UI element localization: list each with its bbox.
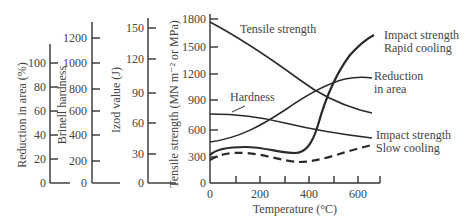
reduction-annotation-line1: Reduction <box>374 69 423 83</box>
tick-label: 40 <box>34 128 46 142</box>
impact-slow-annotation-line2: Slow cooling <box>376 141 440 155</box>
tick-label: 600 <box>349 187 367 201</box>
temperature-axis: 0 200 400 600 Temperature (°C) <box>207 176 380 216</box>
impact-slow-annotation-line1: Impact strength <box>376 128 451 142</box>
tick-label: 100 <box>28 56 46 70</box>
tensile-axis-label: Tensile strength (MN m⁻² or MPa) <box>167 20 181 187</box>
tick-label: 900 <box>188 93 206 107</box>
tick-label: 120 <box>126 52 144 66</box>
tick-label: 600 <box>69 104 87 118</box>
tick-label: 200 <box>69 154 87 168</box>
tick-label: 150 <box>126 21 144 35</box>
tensile-strength-annotation: Tensile strength <box>240 22 316 36</box>
tick-label: 300 <box>188 150 206 164</box>
tick-label: 80 <box>34 80 46 94</box>
tick-label: 30 <box>132 147 144 161</box>
izod-axis: 0 30 60 90 120 150 Izod value (J) <box>109 18 176 190</box>
tick-label: 400 <box>300 187 318 201</box>
reduction-in-area-curve <box>210 77 372 142</box>
impact-rapid-annotation-line1: Impact strength <box>384 28 459 42</box>
tick-label: 800 <box>69 82 87 96</box>
tick-label: 60 <box>132 116 144 130</box>
reduction-annotation-line2: in area <box>374 82 407 96</box>
tick-label: 1500 <box>182 40 206 54</box>
reduction-axis-label: Reduction in area (%) <box>15 62 29 168</box>
tick-label: 1200 <box>182 67 206 81</box>
tick-label: 200 <box>251 187 269 201</box>
tick-label: 60 <box>34 104 46 118</box>
tick-label: 600 <box>188 123 206 137</box>
brinell-axis-label: Brinell hardness <box>55 66 69 145</box>
tick-label: 1200 <box>63 31 87 45</box>
tensile-axis: 0 300 600 900 1200 1500 1800 Tensile str… <box>167 12 218 190</box>
tick-label: 0 <box>207 187 213 201</box>
tick-label: 90 <box>132 86 144 100</box>
tick-label: 0 <box>81 176 87 190</box>
multi-axis-chart: 0 20 40 60 80 100 Reduction in area (%) … <box>0 0 468 222</box>
tick-label: 400 <box>69 128 87 142</box>
impact-rapid-annotation-line2: Rapid cooling <box>384 41 452 55</box>
izod-axis-label: Izod value (J) <box>109 67 123 133</box>
hardness-curve <box>210 114 372 138</box>
x-axis-label: Temperature (°C) <box>253 202 337 216</box>
tick-label: 0 <box>138 176 144 190</box>
tick-label: 0 <box>40 176 46 190</box>
hardness-annotation: Hardness <box>230 90 275 104</box>
tick-label: 0 <box>200 176 206 190</box>
tick-label: 1800 <box>182 12 206 26</box>
tick-label: 20 <box>34 152 46 166</box>
